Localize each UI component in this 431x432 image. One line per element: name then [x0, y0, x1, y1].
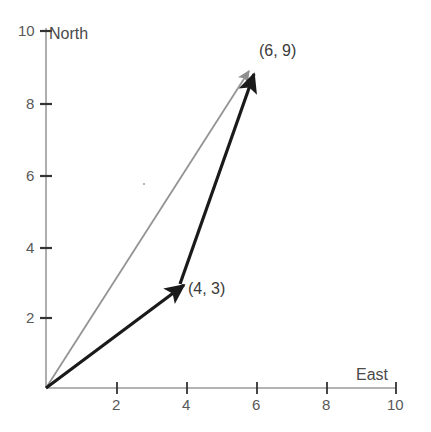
- component-vector-2-arrow: [180, 74, 254, 284]
- x-tick-label-2: 2: [112, 396, 120, 413]
- x-tick-label-6: 6: [252, 396, 260, 413]
- scan-speck: [143, 183, 145, 185]
- x-tick-label-4: 4: [182, 396, 190, 413]
- x-tick-label-8: 8: [322, 396, 330, 413]
- y-tick-label-10: 10: [18, 22, 35, 39]
- y-tick-label-6: 6: [26, 167, 34, 184]
- y-tick-label-2: 2: [26, 309, 34, 326]
- y-tick-label-4: 4: [26, 239, 34, 256]
- resultant-vector-arrow: [46, 71, 249, 388]
- y-axis-title: North: [49, 25, 88, 43]
- component-vector-1-arrow: [46, 285, 184, 388]
- y-tick-label-8: 8: [26, 95, 34, 112]
- vector-diagram: 10 8 6 4 2 2 4 6 8 10 North East (4, 3) …: [0, 0, 431, 432]
- x-tick-label-10: 10: [387, 396, 404, 413]
- point-label-6-9: (6, 9): [259, 42, 296, 60]
- x-axis-title: East: [356, 366, 388, 384]
- point-label-4-3: (4, 3): [188, 280, 225, 298]
